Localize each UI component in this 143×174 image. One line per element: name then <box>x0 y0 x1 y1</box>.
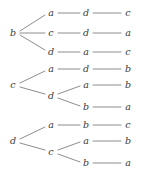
tree-node-label: d <box>10 136 16 146</box>
tree-node-label: b <box>83 158 89 168</box>
tree-node-label: d <box>83 28 89 38</box>
tree-node-label: a <box>83 47 89 57</box>
tree-edge <box>20 15 45 31</box>
tree-node-label: b <box>83 102 89 112</box>
tree-node-label: b <box>83 120 89 130</box>
tree-node-label: b <box>10 28 16 38</box>
tree-node-label: b <box>125 64 131 74</box>
tree-edge <box>58 86 80 94</box>
tree-node-label: c <box>48 28 53 38</box>
tree-node-label: c <box>125 8 130 18</box>
tree-edges-layer <box>0 0 143 174</box>
tree-node-label: d <box>83 64 89 74</box>
tree-node-label: a <box>83 80 89 90</box>
tree-edge <box>58 154 80 162</box>
tree-node-label: a <box>125 158 131 168</box>
tree-node-label: c <box>125 47 130 57</box>
tree-node-label: c <box>10 80 15 90</box>
tree-edge <box>20 35 45 50</box>
permutation-tree-figure: bacdddacaccaddabbbadacbabcba <box>0 0 143 174</box>
tree-node-label: a <box>48 64 54 74</box>
tree-edge <box>20 87 45 94</box>
tree-edge <box>58 142 80 150</box>
tree-node-label: d <box>83 8 89 18</box>
tree-edge <box>58 98 80 106</box>
tree-edge <box>20 143 45 150</box>
tree-node-label: b <box>125 136 131 146</box>
tree-node-label: d <box>48 47 54 57</box>
tree-node-label: a <box>83 136 89 146</box>
tree-node-label: a <box>125 28 131 38</box>
tree-node-label: a <box>48 8 54 18</box>
tree-node-label: a <box>125 102 131 112</box>
tree-node-label: b <box>125 80 131 90</box>
tree-edge <box>20 71 45 83</box>
tree-node-label: d <box>48 91 54 101</box>
tree-node-label: c <box>125 120 130 130</box>
tree-node-label: c <box>48 147 53 157</box>
tree-edge <box>20 127 45 139</box>
tree-node-label: a <box>48 120 54 130</box>
